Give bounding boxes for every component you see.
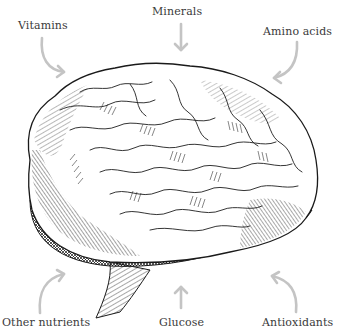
label-minerals: Minerals <box>152 6 202 17</box>
diagram-canvas <box>0 0 340 334</box>
label-antioxidants: Antioxidants <box>262 317 333 328</box>
arrow-minerals <box>175 24 187 50</box>
arrow-other-nutrients <box>40 270 64 313</box>
brainstem <box>96 262 150 318</box>
arrow-glucose <box>175 287 187 308</box>
label-vitamins: Vitamins <box>18 20 68 31</box>
arrow-vitamins <box>42 38 64 77</box>
label-other-nutrients: Other nutrients <box>2 317 90 328</box>
label-glucose: Glucose <box>159 317 204 328</box>
arrow-amino-acids <box>274 42 297 83</box>
arrow-antioxidants <box>272 272 296 312</box>
label-amino-acids: Amino acids <box>263 26 332 37</box>
